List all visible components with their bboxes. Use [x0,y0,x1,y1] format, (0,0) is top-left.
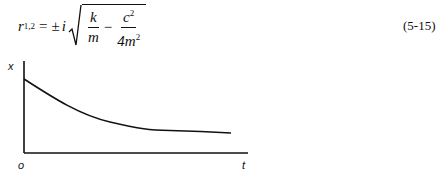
radical-sign-icon [68,4,82,48]
fraction-k-over-m: k m [88,9,99,46]
equation-number: (5-15) [403,18,436,34]
plus-minus-sign: ± [52,18,60,35]
equation-5-15: r1,2 = ± i k m − c2 4m2 [18,4,146,48]
superscript: 2 [136,32,141,42]
numerator: k [88,9,99,28]
y-axis-label: x [8,60,14,72]
lhs-subscript: 1,2 [24,21,35,31]
x-axis-label: t [242,159,245,171]
fraction-c2-over-4m2: c2 4m2 [117,5,140,50]
square-root: k m − c2 4m2 [68,4,146,48]
c-var: c [123,9,130,25]
minus-sign: − [104,19,112,36]
imaginary-unit: i [62,18,66,35]
origin-label: o [18,159,24,171]
equals-sign: = [39,18,47,35]
numerator: c2 [121,5,136,28]
decay-plot: x o t [0,55,260,182]
denominator: m [88,28,99,46]
denominator: 4m2 [117,28,140,50]
four-m: 4m [117,33,135,49]
superscript: 2 [130,8,135,18]
radicand: k m − c2 4m2 [82,4,146,47]
decay-curve [24,79,231,133]
plot-canvas [0,55,260,182]
